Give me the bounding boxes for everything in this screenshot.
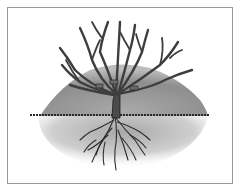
- shrub-illustration: [0, 0, 241, 190]
